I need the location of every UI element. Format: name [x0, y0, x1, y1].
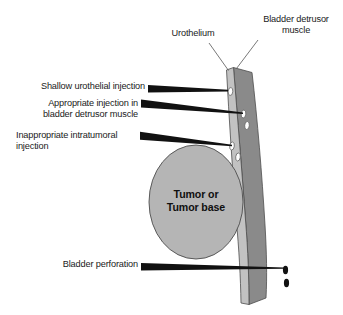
label-bladder-detrusor-muscle: Bladder detrusor muscle [250, 14, 342, 37]
leader-line-urothelium [209, 43, 229, 71]
perforation-dot-upper [283, 266, 288, 274]
label-tumor: Tumor or Tumor base [151, 188, 241, 213]
label-urothelium: Urothelium [151, 28, 235, 39]
pointer-shallow-injection [148, 85, 228, 93]
depot-detrusor-lower [244, 121, 249, 129]
perforation-dot-group [283, 266, 289, 287]
depot-detrusor-upper [241, 110, 246, 118]
perforation-dot-lower [284, 279, 289, 287]
pointer-inappropriate-injection [140, 132, 232, 147]
label-inappropriate-intratumoral-injection: Inappropriate intratumoral injection [16, 130, 142, 153]
depot-urothelial-shallow [228, 87, 233, 95]
label-bladder-perforation: Bladder perforation [6, 259, 138, 270]
pointer-appropriate-injection [141, 100, 243, 114]
leader-line-detrusor [237, 40, 259, 69]
label-appropriate-injection: Appropriate injection in bladder detruso… [6, 98, 138, 121]
label-shallow-urothelial-injection: Shallow urothelial injection [6, 81, 145, 92]
